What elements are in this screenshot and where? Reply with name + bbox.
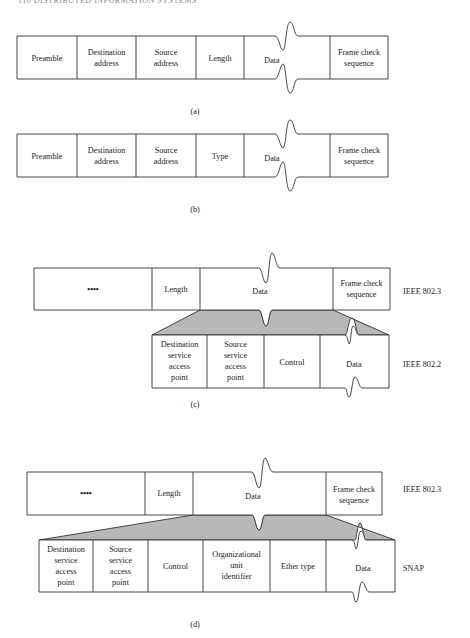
field-data: Data	[245, 492, 261, 501]
field-ssap-2: service	[109, 556, 133, 565]
field-control: Control	[163, 562, 189, 571]
figure-d	[27, 458, 395, 602]
field-destination-address-1: Destination	[88, 48, 126, 57]
caption-a: (a)	[190, 107, 199, 116]
field-data: Data	[264, 56, 280, 65]
field-dsap-3: access	[56, 567, 77, 576]
field-fcs-2: sequence	[344, 59, 374, 68]
figure-a	[17, 22, 388, 93]
field-ellipsis: ••••	[80, 489, 92, 498]
field-dsap-1: Destination	[47, 545, 85, 554]
field-length: Length	[157, 489, 180, 498]
field-data: Data	[355, 564, 371, 573]
field-dsap-4: point	[171, 373, 189, 382]
field-data: Data	[346, 360, 362, 369]
field-ssap-1: Source	[109, 545, 132, 554]
field-source-address-2: address	[154, 59, 179, 68]
field-dsap-1: Destination	[161, 340, 199, 349]
field-ssap-3: access	[110, 567, 131, 576]
label-ieee-802-2: IEEE 802.2	[403, 360, 441, 369]
field-ssap-1: Source	[224, 340, 247, 349]
field-control: Control	[279, 358, 305, 367]
field-fcs-2: sequence	[346, 290, 376, 299]
caption-c: (c)	[190, 400, 199, 409]
field-dsap-2: service	[168, 351, 192, 360]
field-fcs-2: sequence	[344, 157, 374, 166]
field-length: Length	[164, 285, 187, 294]
field-type: Type	[212, 152, 229, 161]
figure-c	[34, 253, 390, 397]
field-ssap-4: point	[227, 373, 245, 382]
field-data: Data	[252, 287, 268, 296]
field-oui-2: unit	[230, 561, 243, 570]
field-ssap-3: access	[225, 362, 246, 371]
field-source-address-2: address	[154, 157, 179, 166]
field-preamble: Preamble	[32, 152, 63, 161]
label-ieee-802-3: IEEE 802.3	[403, 287, 441, 296]
field-length: Length	[208, 54, 231, 63]
field-fcs-1: Frame check	[340, 279, 383, 288]
field-ellipsis: ••••	[87, 285, 99, 294]
field-dsap-2: service	[54, 556, 78, 565]
field-destination-address-1: Destination	[88, 146, 126, 155]
field-dsap-3: access	[169, 362, 190, 371]
field-source-address-1: Source	[155, 146, 178, 155]
field-dsap-4: point	[58, 578, 76, 587]
field-fcs-1: Frame check	[338, 48, 381, 57]
label-snap: SNAP	[403, 564, 424, 573]
frame-format-diagram: Preamble Destination address Source addr…	[0, 0, 470, 638]
field-preamble: Preamble	[32, 54, 63, 63]
field-destination-address-2: address	[94, 59, 119, 68]
field-source-address-1: Source	[155, 48, 178, 57]
field-fcs-1: Frame check	[333, 485, 376, 494]
field-destination-address-2: address	[94, 157, 119, 166]
field-ssap-2: service	[224, 351, 248, 360]
field-fcs-2: sequence	[339, 496, 369, 505]
label-ieee-802-3: IEEE 802.3	[403, 485, 441, 494]
field-fcs-1: Frame check	[338, 146, 381, 155]
field-data: Data	[264, 154, 280, 163]
caption-d: (d)	[190, 620, 200, 629]
field-oui-3: identifier	[221, 572, 251, 581]
field-ssap-4: point	[112, 578, 130, 587]
figure-b	[17, 120, 388, 191]
field-ether-type: Ether type	[281, 562, 315, 571]
field-oui-1: Organizational	[212, 550, 261, 559]
caption-b: (b)	[190, 205, 200, 214]
